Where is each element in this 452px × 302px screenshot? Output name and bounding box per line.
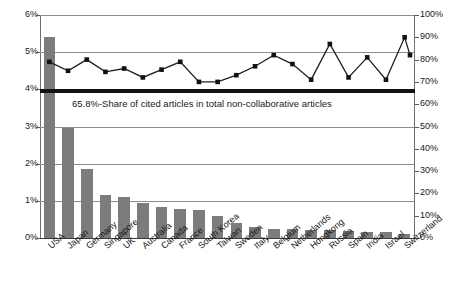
chart-container: 0%1%2%3%4%5%6% 0%10%20%30%40%50%60%70%80…: [0, 0, 452, 302]
x-axis-category-label: Japan: [65, 227, 90, 250]
x-axis-category-label: USA: [46, 231, 67, 251]
x-axis-category-labels: USAJapanGermanySingaporeUKAustraliaCanad…: [0, 0, 452, 302]
x-axis-category-label: Israel: [383, 229, 406, 251]
x-axis-category-label: Switzerland: [402, 213, 444, 251]
